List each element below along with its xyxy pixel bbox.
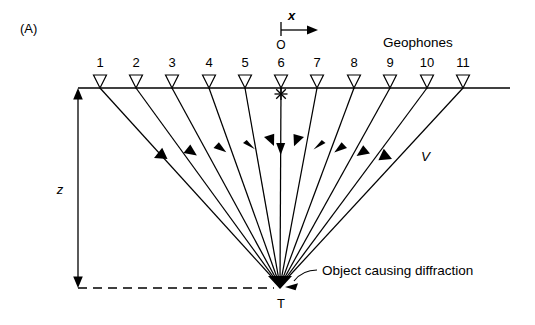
depth-label: z (56, 182, 64, 197)
diffraction-annotation: Object causing diffraction (285, 263, 473, 290)
geophone-number: 7 (313, 55, 320, 70)
ray-path (245, 88, 280, 286)
geophone-symbol-group (94, 75, 470, 88)
geophone-number: 1 (96, 55, 103, 70)
velocity-label: V (421, 149, 432, 164)
ray-path (100, 88, 280, 286)
ray-arrowhead-icon (357, 145, 370, 156)
geophone-number: 10 (420, 55, 434, 70)
geophone-triangle-icon (421, 75, 434, 88)
geophone-triangle-icon (166, 75, 179, 88)
geophone-triangle-icon (130, 75, 143, 88)
geophone-number: 2 (132, 55, 139, 70)
ray-arrowhead-group (154, 134, 392, 160)
panel-label: (A) (20, 21, 37, 36)
geophone-triangle-icon (94, 75, 107, 88)
geophone-triangle-icon (348, 75, 361, 88)
seismic-diffraction-diagram: (A) x O Geophones 1 2 3 4 5 6 7 8 9 10 1… (0, 0, 535, 325)
ray-arrowhead-icon (264, 134, 274, 146)
geophone-number: 8 (350, 55, 357, 70)
x-axis-indicator: x O (276, 8, 318, 52)
ray-path (209, 88, 280, 286)
ray-arrowhead-icon (314, 140, 326, 149)
ray-arrowhead-down-icon (276, 143, 285, 155)
ray-path (172, 88, 280, 286)
origin-label: O (276, 38, 285, 52)
ray-arrowhead-icon (243, 140, 255, 149)
ray-path (280, 88, 354, 286)
ray-path (280, 88, 281, 286)
depth-dimension: z (56, 88, 83, 288)
geophone-number: 11 (456, 55, 470, 70)
geophone-number: 5 (241, 55, 248, 70)
geophones-title: Geophones (383, 35, 453, 50)
geophone-number-group: 1 2 3 4 5 6 7 8 9 10 11 (96, 55, 469, 70)
geophone-number: 6 (277, 55, 284, 70)
ray-path (280, 88, 317, 286)
geophone-number: 4 (205, 55, 212, 70)
geophone-triangle-icon (311, 75, 324, 88)
annotation-leader-line (294, 270, 317, 281)
ray-path (136, 88, 280, 286)
x-axis-arrowhead-icon (307, 26, 318, 35)
annotation-arrowhead-icon (285, 283, 298, 290)
ray-path (280, 88, 427, 286)
geophone-number: 9 (386, 55, 393, 70)
geophone-triangle-icon (457, 75, 470, 88)
ray-arrowhead-icon (294, 134, 305, 146)
x-axis-label: x (287, 8, 296, 23)
ray-path (280, 88, 390, 286)
geophone-number: 3 (168, 55, 175, 70)
shot-point-asterisk-icon (275, 88, 288, 100)
depth-arrowhead-down-icon (73, 277, 83, 289)
depth-arrowhead-up-icon (73, 88, 83, 100)
annotation-text: Object causing diffraction (322, 263, 473, 278)
ray-arrowhead-icon (214, 142, 227, 152)
ray-path-group (100, 88, 463, 286)
figure-container: (A) x O Geophones 1 2 3 4 5 6 7 8 9 10 1… (0, 0, 535, 325)
geophone-triangle-icon (239, 75, 252, 88)
geophone-triangle-icon (275, 75, 288, 88)
geophone-triangle-icon (384, 75, 397, 88)
ray-arrowhead-icon (334, 142, 347, 152)
geophone-triangle-icon (203, 75, 216, 88)
ray-path (280, 88, 463, 286)
ray-arrowhead-icon (184, 145, 197, 156)
diffractor-label: T (277, 296, 285, 311)
